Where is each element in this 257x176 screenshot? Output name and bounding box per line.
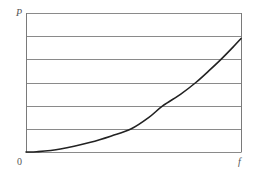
grid-lines [26,14,241,153]
y-axis-label: P [16,8,22,18]
data-curve [26,38,241,152]
plot-frame [27,13,242,153]
chart: P 0 f [0,0,257,176]
origin-label: 0 [17,157,22,167]
x-axis-label: f [238,157,241,167]
chart-plot [0,0,257,176]
